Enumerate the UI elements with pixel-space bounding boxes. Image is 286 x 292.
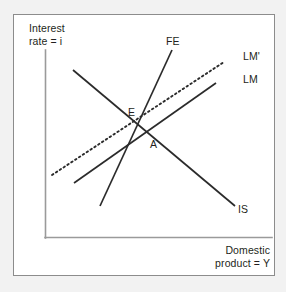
equilibrium-point-e-label: E — [128, 106, 135, 118]
equilibrium-point-a-label: A — [150, 138, 157, 150]
lm-prime-curve-label: LM' — [243, 50, 260, 62]
fe-curve — [100, 50, 172, 206]
x-axis-title-line1: Domestic — [225, 244, 270, 256]
x-axis-title-line2: product = Y — [215, 257, 270, 269]
is-curve-label: IS — [238, 203, 248, 215]
figure-container: Interestrate = i Domesticproduct = Y FE … — [0, 0, 286, 292]
y-axis-title: Interestrate = i — [29, 22, 65, 47]
lm-curve-label: LM — [243, 73, 258, 85]
x-axis-title: Domesticproduct = Y — [182, 244, 270, 269]
y-axis-title-line1: Interest — [29, 22, 65, 34]
y-axis-title-line2: rate = i — [29, 35, 62, 47]
lm-prime-curve — [52, 62, 224, 175]
lm-curve — [74, 83, 216, 183]
fe-curve-label: FE — [166, 35, 180, 47]
